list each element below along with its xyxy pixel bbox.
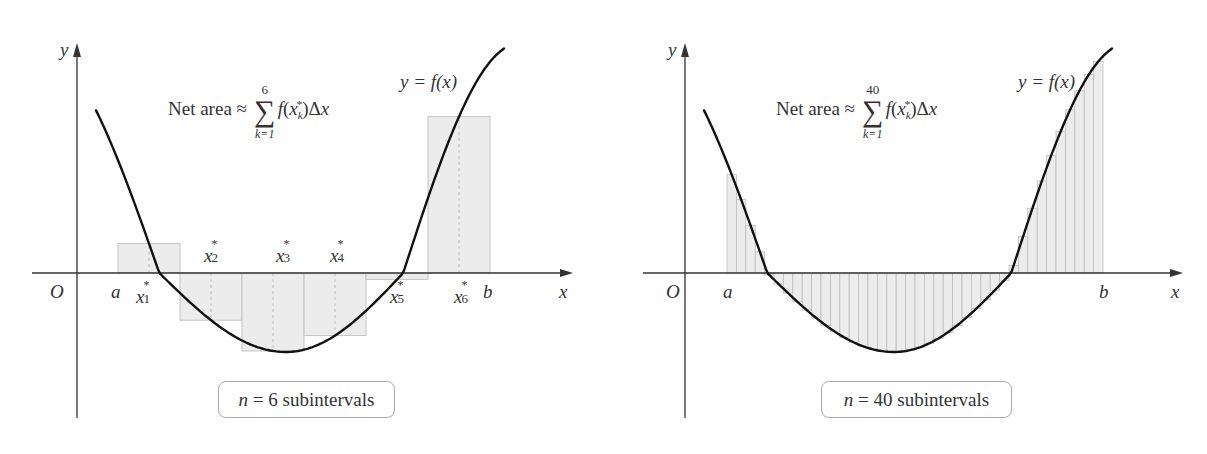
riemann-rect [1056, 131, 1065, 273]
n-var: n [844, 389, 854, 410]
riemann-rect [1065, 110, 1074, 273]
sum-lower: k=1 [854, 127, 892, 142]
a-label: a [111, 282, 121, 301]
riemann-rect [802, 273, 811, 310]
riemann-rect [877, 273, 886, 351]
a-label: a [723, 282, 733, 301]
formula-prefix: Net area ≈ [776, 98, 855, 119]
sample-point-label: x*6 [454, 284, 472, 306]
origin-label: O [50, 282, 64, 301]
x-axis-label: x [1171, 282, 1179, 301]
riemann-rect [896, 273, 905, 352]
formula-prefix: Net area ≈ [168, 98, 247, 119]
riemann-rect [971, 273, 980, 309]
sample-point-label: x*5 [390, 284, 408, 306]
sum-upper: 6 [252, 82, 278, 98]
origin-label: O [666, 282, 680, 301]
y-axis-arrow-icon [681, 43, 689, 57]
rects-group [118, 117, 490, 351]
riemann-rect [868, 273, 877, 349]
x-axis-arrow-icon [1170, 269, 1183, 277]
riemann-rect [859, 273, 868, 346]
n-subintervals-badge: n = 6 subintervals [218, 381, 395, 418]
sample-point-label: x*3 [276, 243, 294, 265]
riemann-rect [962, 273, 971, 317]
riemann-rect [1094, 61, 1103, 273]
n-var: n [239, 389, 249, 410]
sum-upper: 40 [860, 82, 886, 98]
riemann-rect [943, 273, 952, 332]
n-eq: = 6 subintervals [248, 389, 374, 410]
b-label: b [1099, 282, 1109, 301]
y-axis-arrow-icon [73, 43, 81, 57]
riemann-rect [934, 273, 943, 338]
sum-lower: k=1 [246, 127, 284, 142]
net-area-formula: Net area ≈ 40 ∑ k=1 f(xk*)Δx [776, 96, 937, 126]
n-eq: = 40 subintervals [853, 389, 989, 410]
net-area-formula: Net area ≈ 6 ∑ k=1 f(xk*)Δx [168, 96, 329, 126]
riemann-rect [906, 273, 915, 350]
b-label: b [483, 282, 493, 301]
riemann-rect [840, 273, 849, 338]
riemann-rect [727, 175, 736, 273]
chart-n6-panel: y x O a b y = f(x) x*1x*2x*3x*4x*5x*6 Ne… [0, 0, 603, 454]
riemann-rect [887, 273, 896, 352]
curve-label: y = f(x) [400, 72, 457, 91]
riemann-rect [924, 273, 933, 343]
sigma-icon: 40 ∑ k=1 [860, 96, 886, 126]
riemann-rect [1084, 74, 1093, 273]
sigma-icon: 6 ∑ k=1 [252, 96, 278, 126]
riemann-rect [1037, 181, 1046, 273]
riemann-rect [953, 273, 962, 325]
curve-label: y = f(x) [1018, 72, 1075, 91]
sample-point-label: x*4 [330, 243, 348, 265]
riemann-rect [1018, 236, 1027, 273]
riemann-rect [915, 273, 924, 347]
n-subintervals-badge: n = 40 subintervals [821, 381, 1012, 418]
riemann-rect [812, 273, 821, 318]
riemann-rect [830, 273, 839, 332]
riemann-rect [849, 273, 858, 342]
chart-n40-panel: y x O a b y = f(x) Net area ≈ 40 ∑ k=1 f… [604, 0, 1207, 454]
y-axis-label: y [60, 40, 68, 59]
riemann-rect [1075, 91, 1084, 273]
sample-point-label: x*2 [204, 243, 222, 265]
riemann-rect [821, 273, 830, 325]
y-axis-label: y [668, 40, 676, 59]
x-axis-label: x [559, 282, 567, 301]
sample-point-label: x*1 [136, 284, 154, 306]
x-axis-arrow-icon [560, 269, 573, 277]
riemann-rect [1047, 155, 1056, 273]
